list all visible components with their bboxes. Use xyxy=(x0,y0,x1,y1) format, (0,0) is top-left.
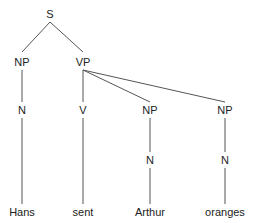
node-s: S xyxy=(45,8,54,20)
node-np-indirect: NP xyxy=(141,104,158,116)
leaf-hans: Hans xyxy=(8,206,36,218)
leaf-sent: sent xyxy=(72,206,95,218)
edge-s-np xyxy=(22,22,50,52)
node-v: V xyxy=(78,104,87,116)
edge-vp-np2 xyxy=(83,70,150,102)
node-np-subject: NP xyxy=(13,56,30,68)
node-n-direct: N xyxy=(220,154,230,166)
tree-edges xyxy=(0,0,253,223)
node-np-direct: NP xyxy=(216,104,233,116)
leaf-oranges: oranges xyxy=(204,206,246,218)
node-n-indirect: N xyxy=(145,154,155,166)
edge-vp-np3 xyxy=(83,70,225,102)
node-vp: VP xyxy=(75,56,92,68)
leaf-arthur: Arthur xyxy=(134,206,166,218)
edge-s-vp xyxy=(50,22,83,52)
node-n-subject: N xyxy=(17,104,27,116)
